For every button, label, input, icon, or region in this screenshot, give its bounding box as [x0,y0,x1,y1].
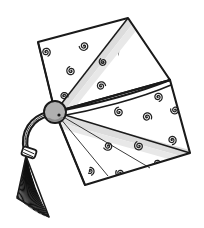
graduation-cap-illustration: Graduation Cap [0,0,204,228]
center-button-group [44,101,66,123]
cap-vector-scene: Graduation Cap [0,0,204,228]
center-button-dot [57,113,60,116]
